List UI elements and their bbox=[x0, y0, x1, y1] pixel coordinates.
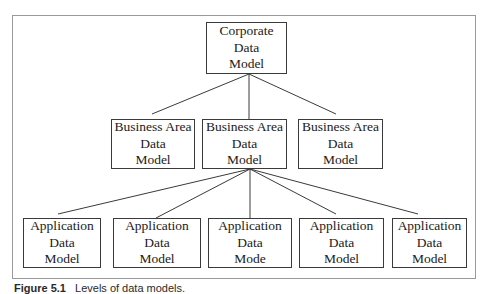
node-label-line: Application bbox=[398, 218, 462, 235]
node-business-area-data-model-3: Business Area Data Model bbox=[298, 119, 383, 169]
edge-ba2-app2 bbox=[156, 169, 250, 218]
node-label-line: Model bbox=[227, 152, 262, 169]
node-label-line: Data bbox=[328, 136, 353, 153]
node-label-line: Model bbox=[135, 152, 170, 169]
node-label-line: Data bbox=[329, 235, 354, 252]
node-label-line: Data bbox=[49, 235, 74, 252]
node-label-line: Data bbox=[237, 235, 262, 252]
node-application-data-model-3: Application Data Mode bbox=[208, 218, 292, 268]
node-label-line: Application bbox=[125, 218, 189, 235]
node-label-line: Model bbox=[323, 152, 358, 169]
node-label-line: Model bbox=[324, 251, 359, 268]
node-application-data-model-4: Application Data Model bbox=[299, 218, 384, 268]
edge-corporate-ba1 bbox=[152, 74, 249, 114]
figure-caption-text: Levels of data models. bbox=[75, 282, 185, 294]
node-label-line: Application bbox=[218, 218, 282, 235]
edge-ba2-app1 bbox=[58, 169, 250, 214]
node-label-line: Data bbox=[140, 136, 165, 153]
node-corporate-data-model: Corporate Data Model bbox=[206, 22, 287, 74]
edge-corporate-ba3 bbox=[249, 74, 336, 114]
node-label-line: Data bbox=[417, 235, 442, 252]
figure-label: Figure 5.1 bbox=[14, 282, 66, 294]
node-label-line: Data bbox=[144, 235, 169, 252]
node-label-line: Application bbox=[310, 218, 374, 235]
node-label-line: Model bbox=[139, 251, 174, 268]
node-label-line: Model bbox=[412, 251, 447, 268]
node-business-area-data-model-2: Business Area Data Model bbox=[202, 119, 287, 169]
node-application-data-model-1: Application Data Model bbox=[23, 218, 101, 268]
node-label-line: Corporate bbox=[220, 23, 274, 40]
figure-caption: Figure 5.1 Levels of data models. bbox=[14, 282, 185, 294]
node-label-line: Business Area bbox=[115, 119, 192, 136]
node-label-line: Data bbox=[234, 40, 259, 57]
node-label-line: Application bbox=[30, 218, 94, 235]
node-application-data-model-2: Application Data Model bbox=[113, 218, 201, 268]
node-label-line: Data bbox=[232, 136, 257, 153]
node-business-area-data-model-1: Business Area Data Model bbox=[111, 119, 195, 169]
node-label-line: Business Area bbox=[206, 119, 283, 136]
node-label-line: Mode bbox=[234, 251, 266, 268]
node-label-line: Model bbox=[229, 56, 264, 73]
edge-ba2-app4 bbox=[250, 169, 336, 214]
node-label-line: Model bbox=[44, 251, 79, 268]
edge-ba2-app5 bbox=[250, 169, 418, 214]
node-label-line: Business Area bbox=[302, 119, 379, 136]
node-application-data-model-5: Application Data Model bbox=[392, 218, 467, 268]
